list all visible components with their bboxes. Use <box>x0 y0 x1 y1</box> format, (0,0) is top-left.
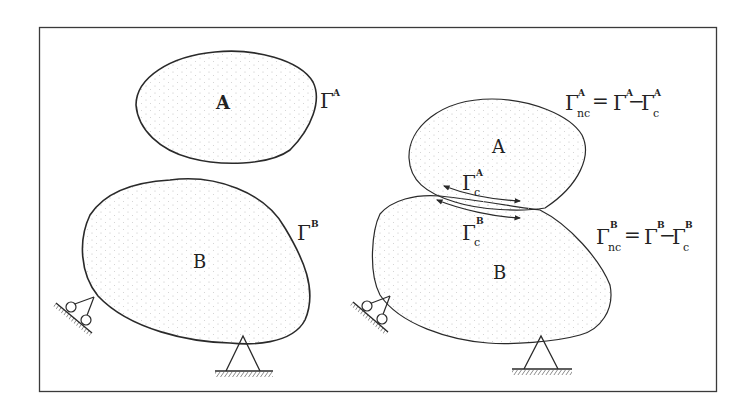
gamma-a-label: Γ A <box>320 88 341 113</box>
svg-text:Γ: Γ <box>644 225 658 249</box>
body-a-label-right: A <box>491 136 506 157</box>
svg-text:B: B <box>311 219 319 229</box>
svg-text:A: A <box>475 168 484 178</box>
right-panel: A B Γ A c Γ B c Γ A nc = Γ A − Γ A c <box>350 88 693 375</box>
svg-text:c: c <box>474 236 480 249</box>
svg-text:A: A <box>332 88 341 98</box>
equation-gamma-nc-b: Γ B nc = Γ B − Γ B c <box>596 220 693 254</box>
svg-text:B: B <box>610 220 618 230</box>
svg-text:B: B <box>476 216 484 226</box>
svg-text:A: A <box>577 88 586 98</box>
svg-text:c: c <box>683 241 689 254</box>
roller-support-right <box>350 296 390 335</box>
svg-text:=: = <box>592 89 609 113</box>
svg-text:c: c <box>653 107 659 120</box>
body-a-label: A <box>215 92 231 113</box>
gamma-b-label: Γ B <box>297 219 319 245</box>
svg-text:nc: nc <box>608 241 621 254</box>
body-b-right <box>372 196 611 344</box>
svg-text:nc: nc <box>577 107 590 120</box>
svg-text:c: c <box>474 186 480 199</box>
svg-text:Γ: Γ <box>613 91 627 115</box>
body-b-label: B <box>193 251 206 272</box>
svg-text:A: A <box>653 88 662 98</box>
svg-text:Γ: Γ <box>297 221 311 245</box>
svg-text:Γ: Γ <box>320 89 334 113</box>
left-panel: A Γ A B Γ B <box>53 51 341 377</box>
svg-text:B: B <box>685 220 693 230</box>
body-b-label-right: B <box>493 262 506 283</box>
equation-gamma-nc-a: Γ A nc = Γ A − Γ A c <box>565 88 662 120</box>
contact-diagram: A Γ A B Γ B <box>0 0 753 412</box>
svg-text:=: = <box>624 223 641 247</box>
roller-support-left <box>53 297 94 336</box>
